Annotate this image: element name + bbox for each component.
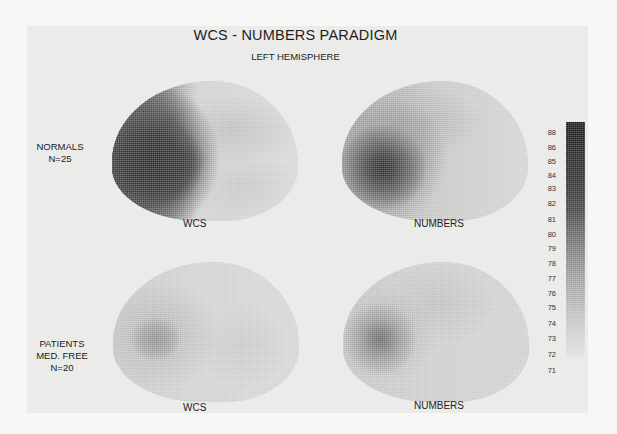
caption-normals-numbers: NUMBERS	[414, 218, 464, 229]
colorbar-tick: 78	[536, 259, 556, 268]
colorbar-tick: 85	[536, 157, 556, 166]
colorbar-tick: 83	[536, 184, 556, 193]
colorbar-tick: 77	[536, 274, 556, 283]
brain-map-patients-wcs	[113, 262, 299, 402]
row-label-normals: NORMALS N=25	[24, 141, 96, 165]
colorbar-tick: 71	[536, 366, 556, 375]
colorbar-tick: 84	[536, 171, 556, 180]
row-label-patients: PATIENTS MED. FREE N=20	[22, 338, 102, 374]
colorbar-tick: 75	[536, 303, 556, 312]
caption-patients-numbers: NUMBERS	[414, 400, 464, 411]
row-label-line: MED. FREE	[22, 350, 102, 362]
colorbar	[566, 122, 585, 358]
row-label-line: N=25	[24, 153, 96, 165]
colorbar-tick: 72	[536, 350, 556, 359]
colorbar-tick: 88	[536, 128, 556, 137]
colorbar-tick: 73	[536, 334, 556, 343]
row-label-line: NORMALS	[24, 141, 96, 153]
colorbar-tick: 81	[536, 215, 556, 224]
brain-map-normals-wcs	[112, 81, 298, 221]
colorbar-tick: 79	[536, 244, 556, 253]
colorbar-tick: 80	[536, 230, 556, 239]
caption-normals-wcs: WCS	[183, 218, 206, 229]
caption-patients-wcs: WCS	[183, 402, 206, 413]
colorbar-tick: 86	[536, 143, 556, 152]
brain-map-patients-numbers	[343, 262, 529, 402]
figure-subtitle: LEFT HEMISPHERE	[0, 51, 617, 62]
figure-title: WCS - NUMBERS PARADIGM	[0, 27, 617, 43]
brain-map-normals-numbers	[342, 81, 528, 221]
colorbar-tick: 74	[536, 319, 556, 328]
row-label-line: N=20	[22, 362, 102, 374]
row-label-line: PATIENTS	[22, 338, 102, 350]
colorbar-tick: 76	[536, 289, 556, 298]
colorbar-tick: 82	[536, 199, 556, 208]
